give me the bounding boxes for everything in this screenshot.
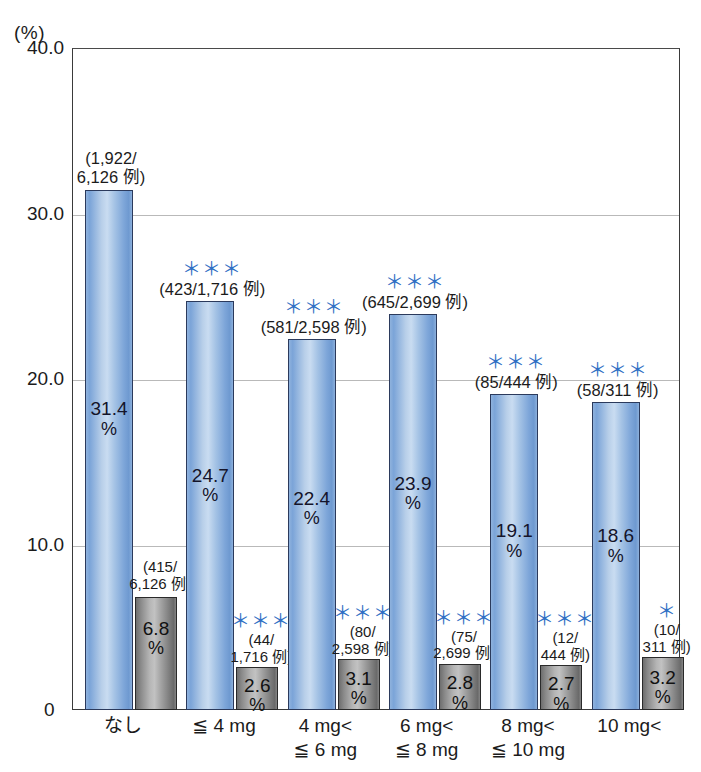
bar-gray[interactable]: 6.8% (135, 597, 177, 710)
y-axis-tick-label: 40.0 (27, 37, 64, 59)
case-fraction-label: (10/ 311 例) (643, 621, 691, 655)
bar-annotation: ＊＊＊(58/311 例) (551, 361, 685, 398)
bar-group: ＊＊＊(58/311 例)18.6%＊(10/ 311 例)3.2% (579, 48, 680, 710)
case-fraction-label: (58/311 例) (577, 381, 659, 399)
bar-annotation: ＊(10/ 311 例) (634, 602, 700, 653)
bar-annotation: ＊＊＊(423/1,716 例) (145, 260, 279, 297)
bar-blue[interactable]: 19.1% (490, 394, 538, 710)
bar-group: (1,922/ 6,126 例)31.4%(415/ 6,126 例)6.8% (72, 48, 173, 710)
bar-value-label: 23.9% (390, 474, 436, 514)
significance-marker: ＊ (634, 602, 700, 621)
bar-value-label: 2.8% (440, 673, 480, 713)
bar-annotation: ＊＊＊(645/2,699 例) (348, 273, 482, 310)
case-fraction-label: (85/444 例) (475, 373, 558, 391)
x-axis-category-labels: なし≦ 4 mg4 mg< ≦ 6 mg6 mg< ≦ 8 mg8 mg< ≦ … (72, 714, 680, 763)
x-axis-category-label: 4 mg< ≦ 6 mg (275, 714, 376, 763)
bar-groups: (1,922/ 6,126 例)31.4%(415/ 6,126 例)6.8%＊… (72, 48, 680, 710)
bar-blue[interactable]: 23.9% (389, 314, 437, 710)
x-axis-category-label: ≦ 4 mg (173, 714, 274, 763)
significance-marker: ＊＊＊ (145, 260, 279, 279)
x-axis-category-label: 6 mg< ≦ 8 mg (376, 714, 477, 763)
bar-value-label: 22.4% (289, 489, 335, 529)
case-fraction-label: (423/1,716 例) (159, 280, 265, 298)
bar-value-label: 31.4% (86, 399, 132, 439)
x-axis-category-label: 10 mg< (579, 714, 680, 763)
bar-value-label: 3.2% (643, 668, 683, 708)
y-axis-tick-label: 30.0 (27, 203, 64, 225)
bar-value-label: 18.6% (593, 526, 639, 566)
bar-blue[interactable]: 18.6% (592, 402, 640, 710)
bar-blue[interactable]: 31.4% (85, 190, 133, 710)
bar-blue[interactable]: 24.7% (186, 301, 234, 710)
bar-annotation: (1,922/ 6,126 例) (44, 149, 178, 186)
bar-value-label: 2.6% (237, 676, 277, 716)
case-fraction-label: (581/2,598 例) (261, 318, 367, 336)
bar-value-label: 3.1% (339, 669, 379, 709)
bar-gray[interactable]: 2.7% (540, 665, 582, 710)
bar-gray[interactable]: 3.2% (642, 657, 684, 710)
bar-gray[interactable]: 2.6% (236, 667, 278, 710)
bar-value-label: 2.7% (541, 674, 581, 714)
x-axis-category-label: 8 mg< ≦ 10 mg (477, 714, 578, 763)
case-fraction-label: (1,922/ 6,126 例) (77, 149, 145, 185)
bar-group: ＊＊＊(423/1,716 例)24.7%＊＊＊(44/ 1,716 例)2.6… (173, 48, 274, 710)
case-fraction-label: (645/2,699 例) (362, 293, 468, 311)
bar-blue[interactable]: 22.4% (288, 339, 336, 710)
y-axis-zero-label: 0 (44, 699, 55, 721)
bar-value-label: 6.8% (136, 619, 176, 659)
y-axis-tick-labels: 40.030.020.010.0 (0, 0, 72, 772)
bar-value-label: 19.1% (491, 521, 537, 561)
y-axis-tick-label: 20.0 (27, 368, 64, 390)
significance-marker: ＊＊＊ (551, 361, 685, 380)
significance-marker: ＊＊＊ (348, 273, 482, 292)
bar-gray[interactable]: 3.1% (338, 659, 380, 710)
bar-group: ＊＊＊(581/2,598 例)22.4%＊＊＊(80/ 2,598 例)3.1… (275, 48, 376, 710)
y-axis-tick-label: 10.0 (27, 534, 64, 556)
x-axis-category-label: なし (72, 714, 173, 763)
bar-value-label: 24.7% (187, 466, 233, 506)
bar-gray[interactable]: 2.8% (439, 664, 481, 710)
